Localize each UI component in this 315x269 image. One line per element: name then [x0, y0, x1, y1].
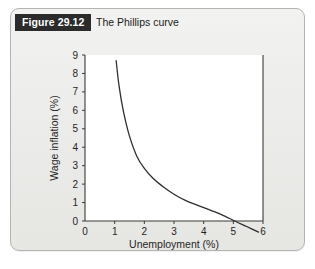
x-tick-label: 4	[201, 226, 207, 237]
figure-caption-row: Figure 29.12 The Phillips curve	[11, 9, 304, 35]
figure-number-badge: Figure 29.12	[15, 14, 91, 31]
x-tick-label: 6	[260, 226, 266, 237]
x-tick-label: 0	[82, 226, 88, 237]
y-tick-label: 7	[72, 86, 78, 97]
x-tick-label: 3	[171, 226, 177, 237]
y-axis-title: Wage inflation (%)	[48, 95, 60, 180]
x-tick-label: 1	[112, 226, 118, 237]
y-tick-label: 5	[72, 123, 78, 134]
chart-plot-region: 0123456789 0123456 Unemployment (%) Wage…	[11, 35, 305, 251]
plot-panel-background	[85, 55, 263, 221]
y-tick-label: 2	[72, 179, 78, 190]
y-axis: 0123456789	[72, 50, 85, 227]
figure-card: Figure 29.12 The Phillips curve 01234567…	[10, 8, 305, 251]
y-tick-label: 0	[72, 216, 78, 227]
y-tick-label: 8	[72, 68, 78, 79]
x-tick-label: 5	[231, 226, 237, 237]
x-tick-labels: 0123456	[82, 226, 266, 237]
phillips-curve-chart: 0123456789 0123456 Unemployment (%) Wage…	[11, 35, 305, 251]
y-tick-label: 6	[72, 105, 78, 116]
y-tick-label: 3	[72, 160, 78, 171]
y-tick-label: 1	[72, 197, 78, 208]
x-tick-label: 2	[142, 226, 148, 237]
figure-caption-title: The Phillips curve	[96, 14, 179, 31]
x-axis-title: Unemployment (%)	[129, 238, 219, 250]
y-tick-label: 9	[72, 50, 78, 61]
y-tick-label: 4	[72, 142, 78, 153]
y-tick-labels: 0123456789	[72, 50, 78, 227]
